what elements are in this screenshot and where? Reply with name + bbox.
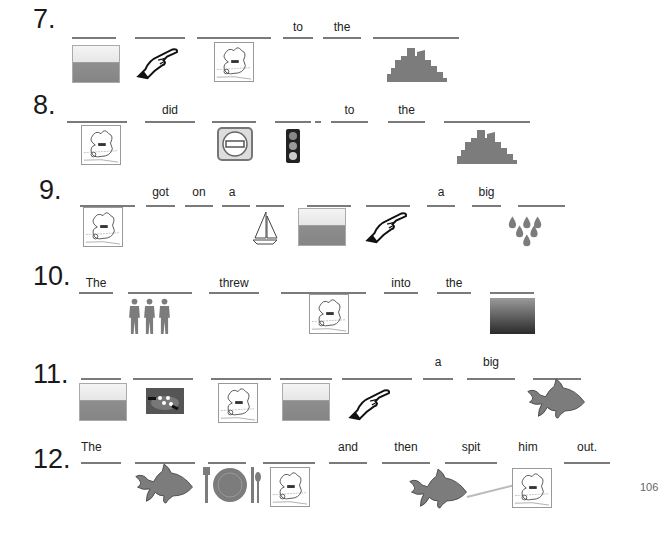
jonah-icon — [83, 207, 123, 247]
no-entry-sign-icon — [217, 127, 253, 161]
blank-line[interactable] — [467, 378, 515, 380]
blank-line[interactable] — [209, 292, 259, 294]
blank-line[interactable] — [373, 37, 459, 39]
jonah-icon — [270, 467, 310, 507]
exercise-number: 7. — [33, 6, 56, 33]
city-skyline-icon — [456, 124, 518, 164]
blank-line[interactable] — [79, 292, 113, 294]
sea-icon — [298, 208, 346, 246]
jonah-icon — [214, 42, 254, 82]
word-to: to — [331, 104, 368, 116]
blank-line[interactable] — [135, 37, 185, 39]
blank-line[interactable] — [280, 378, 332, 380]
blank-line[interactable] — [211, 378, 271, 380]
word-him: him — [513, 441, 543, 453]
blank-line[interactable] — [518, 205, 565, 207]
blank-line[interactable] — [145, 121, 195, 123]
sea-icon — [79, 383, 127, 421]
blank-line[interactable] — [427, 205, 455, 207]
blank-line[interactable] — [423, 378, 453, 380]
blank-line[interactable] — [133, 378, 193, 380]
city-skyline-icon — [386, 42, 448, 82]
blank-line[interactable] — [388, 121, 425, 123]
storm-icon — [146, 388, 184, 414]
word-big: big — [467, 356, 515, 368]
blank-line[interactable] — [329, 462, 367, 464]
blank-line[interactable] — [208, 462, 246, 464]
dark-sea-icon — [490, 298, 535, 334]
blank-line[interactable] — [146, 205, 175, 207]
word-the: the — [388, 104, 425, 116]
jonah-icon — [81, 125, 121, 165]
blank-line[interactable] — [382, 462, 430, 464]
blank-line[interactable] — [72, 37, 116, 39]
plate-cutlery-icon — [203, 465, 261, 505]
word-to: to — [283, 21, 313, 33]
sea-icon — [72, 45, 120, 83]
fish-icon — [408, 468, 470, 510]
blank-line[interactable] — [315, 121, 321, 123]
blank-line[interactable] — [81, 378, 121, 380]
sea-icon — [282, 383, 330, 421]
word-a: a — [423, 356, 453, 368]
fish-icon — [526, 378, 588, 420]
fish-icon — [134, 463, 196, 505]
blank-line[interactable] — [275, 121, 311, 123]
pointing-hand-icon — [348, 385, 394, 421]
sailboat-icon — [251, 210, 279, 246]
blank-line[interactable] — [81, 462, 121, 464]
blank-line[interactable] — [212, 121, 256, 123]
word-and: and — [329, 441, 367, 453]
jonah-icon — [512, 468, 552, 508]
blank-line[interactable] — [331, 121, 368, 123]
pointing-hand-icon — [365, 208, 411, 244]
word-the: the — [323, 21, 361, 33]
jonah-icon — [309, 294, 349, 334]
exercise-number: 10. — [33, 263, 71, 290]
blank-line[interactable] — [67, 121, 127, 123]
page-number: 106 — [640, 481, 658, 493]
word-on: on — [185, 186, 213, 198]
word-did: did — [145, 104, 195, 116]
blank-line[interactable] — [445, 462, 497, 464]
word-the: the — [437, 277, 471, 289]
blank-line[interactable] — [197, 37, 271, 39]
pointing-hand-icon — [136, 44, 182, 80]
word-a: a — [222, 186, 242, 198]
blank-line[interactable] — [437, 292, 471, 294]
exercise-number: 9. — [39, 177, 62, 204]
word-big: big — [472, 186, 501, 198]
word-the: The — [79, 277, 113, 289]
traffic-light-icon — [283, 127, 303, 165]
raindrops-icon — [505, 213, 545, 249]
word-into: into — [384, 277, 418, 289]
blank-line[interactable] — [128, 292, 192, 294]
blank-line[interactable] — [283, 37, 313, 39]
blank-line[interactable] — [307, 205, 351, 207]
blank-line[interactable] — [222, 205, 250, 207]
word-out: out. — [564, 441, 610, 453]
blank-line[interactable] — [384, 292, 418, 294]
blank-line[interactable] — [263, 462, 315, 464]
blank-line[interactable] — [185, 205, 213, 207]
blank-line[interactable] — [490, 292, 534, 294]
word-got: got — [146, 186, 175, 198]
word-the: The — [81, 441, 101, 453]
word-threw: threw — [209, 277, 259, 289]
blank-line[interactable] — [564, 462, 610, 464]
exercise-number: 12. — [33, 446, 71, 473]
exercise-number: 8. — [33, 92, 56, 119]
word-a: a — [427, 186, 455, 198]
exercise-number: 11. — [33, 361, 69, 388]
word-then: then — [382, 441, 430, 453]
jonah-icon — [218, 383, 258, 423]
blank-line[interactable] — [366, 205, 410, 207]
word-spit: spit — [445, 441, 497, 453]
blank-line[interactable] — [256, 205, 284, 207]
blank-line[interactable] — [472, 205, 501, 207]
blank-line[interactable] — [342, 378, 412, 380]
blank-line[interactable] — [444, 121, 530, 123]
three-men-icon — [128, 298, 174, 334]
blank-line[interactable] — [323, 37, 361, 39]
